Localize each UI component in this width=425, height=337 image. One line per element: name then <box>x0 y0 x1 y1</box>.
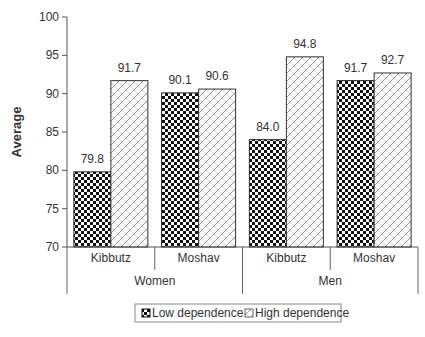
y-tick-label: 75 <box>46 202 60 216</box>
legend-label-low-dependence: Low dependence <box>152 306 244 320</box>
x-axis: KibbutzMoshavKibbutzMoshavWomenMen <box>67 247 418 294</box>
legend: Low dependence High dependence <box>135 304 349 322</box>
x-category-label: Moshav <box>353 251 395 265</box>
legend-swatch-low-dependence <box>142 309 150 317</box>
bar-high-dependence-3 <box>374 73 411 247</box>
y-axis: 707580859095100 <box>39 10 67 254</box>
data-label: 92.7 <box>381 53 405 67</box>
y-tick-label: 70 <box>46 240 60 254</box>
bar-high-dependence-0 <box>111 81 148 247</box>
bar-chart: Average 707580859095100 79.891.790.190.6… <box>0 0 425 337</box>
x-category-label: Moshav <box>178 251 220 265</box>
bar-high-dependence-1 <box>199 89 236 247</box>
y-tick-label: 80 <box>46 163 60 177</box>
x-category-label: Kibbutz <box>91 251 131 265</box>
y-axis-title: Average <box>9 107 24 158</box>
data-label: 94.8 <box>293 37 317 51</box>
bar-high-dependence-2 <box>286 57 323 247</box>
x-category-label: Kibbutz <box>266 251 306 265</box>
bar-low-dependence-1 <box>162 93 199 247</box>
data-label: 90.1 <box>168 73 192 87</box>
data-label: 84.0 <box>256 120 280 134</box>
y-tick-label: 95 <box>46 48 60 62</box>
data-label: 79.8 <box>81 152 105 166</box>
bar-low-dependence-3 <box>337 81 374 247</box>
bar-low-dependence-0 <box>74 172 111 247</box>
bars: 79.891.790.190.684.094.891.792.7 <box>74 37 411 247</box>
legend-swatch-high-dependence <box>245 309 253 317</box>
y-tick-label: 100 <box>39 10 59 24</box>
bar-low-dependence-2 <box>249 140 286 247</box>
x-group-label: Men <box>319 274 342 288</box>
legend-label-high-dependence: High dependence <box>255 306 349 320</box>
y-tick-label: 90 <box>46 87 60 101</box>
data-label: 91.7 <box>118 61 142 75</box>
data-label: 90.6 <box>205 69 229 83</box>
x-group-label: Women <box>134 274 175 288</box>
y-tick-label: 85 <box>46 125 60 139</box>
data-label: 91.7 <box>344 61 368 75</box>
